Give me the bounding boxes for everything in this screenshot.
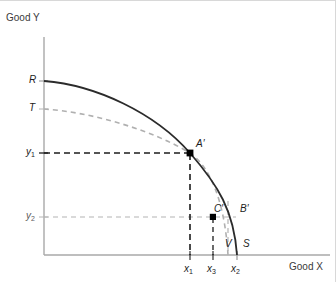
y-label-T: T xyxy=(29,103,35,113)
x-label-x3: x3 xyxy=(207,264,216,274)
y-axis-title: Good Y xyxy=(6,13,40,23)
x-label-x1-sub: 1 xyxy=(189,268,193,275)
ppf-diagram-figure: Good Y Good X R T y1 y2 x1 x3 x2 A′ B′ C… xyxy=(0,0,336,282)
x-axis-title: Good X xyxy=(289,262,323,272)
point-label-B-prime: B′ xyxy=(240,204,249,214)
point-marker-A-prime xyxy=(187,150,194,157)
x-label-x3-sub: 3 xyxy=(212,268,216,275)
point-label-C-prime: C′ xyxy=(214,204,223,214)
point-label-A-prime: A′ xyxy=(196,139,205,149)
y-label-y2: y2 xyxy=(26,211,35,221)
x-label-x1: x1 xyxy=(184,264,193,274)
outer-frontier-curve-RS xyxy=(44,81,237,255)
y-label-R: R xyxy=(29,75,36,85)
plot-canvas xyxy=(0,1,336,282)
x-label-x2-sub: 2 xyxy=(236,268,240,275)
y-label-y2-sub: 2 xyxy=(31,215,35,222)
point-label-V: V xyxy=(225,239,232,249)
x-label-x2: x2 xyxy=(231,264,240,274)
point-label-S: S xyxy=(243,239,250,249)
inner-frontier-curve-TV xyxy=(44,109,228,255)
point-marker-C-prime xyxy=(210,214,216,220)
y-label-y1: y1 xyxy=(26,147,35,157)
y-label-y1-sub: 1 xyxy=(31,151,35,158)
